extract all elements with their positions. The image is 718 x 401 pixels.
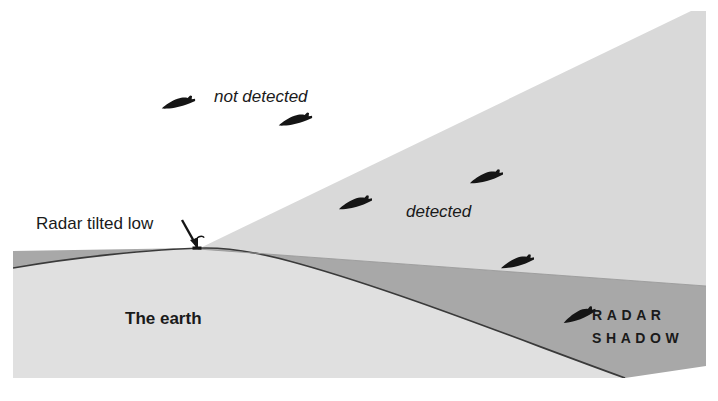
label-radar-shadow-line-2: SHADOW [592, 331, 683, 345]
radar-beam-detected [198, 11, 706, 286]
label-radar-shadow-line-1: RADAR [592, 308, 666, 322]
label-the-earth: The earth [125, 310, 202, 327]
label-radar-tilted-low: Radar tilted low [36, 215, 153, 232]
label-not-detected: not detected [214, 88, 308, 105]
radar-shadow-diagram: not detected detected Radar tilted low T… [0, 0, 718, 401]
label-detected: detected [406, 203, 471, 220]
radar-pointer-arrow-icon [182, 220, 198, 249]
aircraft-not-detected-2 [277, 112, 313, 128]
aircraft-not-detected-1 [160, 95, 196, 111]
